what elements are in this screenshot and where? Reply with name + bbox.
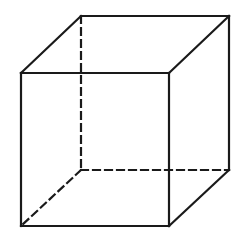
hidden-bottom-left-depth-edge [21, 170, 81, 226]
cube-diagram [0, 0, 244, 235]
top-left-depth-edge [21, 16, 81, 73]
bottom-right-depth-edge [169, 170, 229, 226]
top-right-depth-edge [169, 16, 229, 73]
